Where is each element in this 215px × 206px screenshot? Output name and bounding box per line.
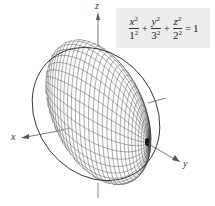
equation-box: x2 12 + y2 32 + z2 22 = 1 — [116, 8, 210, 48]
y-axis-label: y — [183, 158, 187, 169]
x-axis — [26, 131, 58, 137]
x-axis-inner — [58, 128, 70, 131]
ellipsoid-outline — [6, 22, 186, 206]
x-axis-label: x — [11, 131, 15, 142]
z-term: z2 22 — [173, 16, 183, 41]
x-axis-back — [148, 98, 166, 103]
rhs-value: 1 — [193, 22, 199, 34]
equals-sign: = — [185, 23, 191, 34]
x-axis-arrowhead — [21, 134, 29, 139]
y-axis-arrowhead — [172, 155, 180, 162]
plus-sign: + — [142, 23, 148, 34]
plus-sign: + — [164, 23, 170, 34]
z-axis-arrowhead — [96, 12, 100, 20]
ellipsoid-mesh — [6, 22, 186, 206]
x-term: x2 12 — [129, 16, 139, 41]
y-term: y2 32 — [151, 16, 161, 41]
ellipsoid-pole — [145, 138, 149, 146]
z-axis-label: z — [95, 0, 99, 11]
